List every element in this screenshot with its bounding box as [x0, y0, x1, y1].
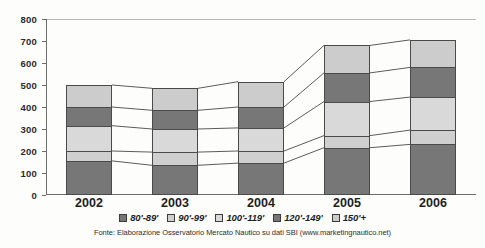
bar-segment[interactable] — [67, 85, 111, 107]
stacked-bar-chart: 0100200300400500600700800 20022003200420… — [0, 0, 485, 248]
y-tick-label: 300 — [21, 124, 37, 135]
bar-segment[interactable] — [411, 144, 455, 195]
bar-segment[interactable] — [239, 107, 283, 128]
legend-swatch-icon — [119, 214, 127, 222]
y-tick-label: 600 — [21, 58, 37, 69]
bar-segment[interactable] — [153, 152, 197, 165]
legend-label: 90'-99' — [178, 212, 206, 223]
x-tick-label: 2006 — [419, 196, 447, 210]
stacked-bar[interactable] — [410, 40, 456, 195]
bar-segment[interactable] — [239, 163, 283, 195]
legend-label: 150'+ — [343, 212, 366, 223]
bar-segment[interactable] — [153, 129, 197, 152]
y-axis: 0100200300400500600700800 — [0, 0, 46, 200]
legend-label: 100'-119' — [226, 212, 264, 223]
y-tick-label: 100 — [21, 168, 37, 179]
chart-legend: 80'-89'90'-99'100'-119'120'-149'150'+ — [0, 212, 485, 223]
bar-segment[interactable] — [411, 67, 455, 97]
x-tick-label: 2003 — [161, 196, 189, 210]
legend-label: 80'-89' — [130, 212, 158, 223]
bar-segment[interactable] — [153, 110, 197, 129]
legend-swatch-icon — [332, 214, 340, 222]
legend-swatch-icon — [273, 214, 281, 222]
stacked-bar[interactable] — [238, 82, 284, 195]
legend-swatch-icon — [215, 214, 223, 222]
y-tick-label: 500 — [21, 80, 37, 91]
bar-segment[interactable] — [239, 82, 283, 107]
legend-item[interactable]: 150'+ — [332, 212, 366, 223]
legend-label: 120'-149' — [284, 212, 322, 223]
y-tick-label: 700 — [21, 36, 37, 47]
bar-segment[interactable] — [67, 161, 111, 195]
bar-segment[interactable] — [325, 148, 369, 195]
source-note: Fonte: Elaborazione Osservatorio Mercato… — [0, 228, 485, 237]
legend-item[interactable]: 100'-119' — [215, 212, 264, 223]
bar-segment[interactable] — [325, 73, 369, 102]
bar-segment[interactable] — [153, 88, 197, 110]
bar-segment[interactable] — [411, 40, 455, 68]
legend-item[interactable]: 120'-149' — [273, 212, 322, 223]
bar-segment[interactable] — [67, 126, 111, 151]
bar-segment[interactable] — [239, 151, 283, 163]
bar-segment[interactable] — [67, 107, 111, 126]
bar-segment[interactable] — [67, 151, 111, 161]
x-axis-labels: 20022003200420052006 — [46, 196, 476, 213]
y-tick-label: 200 — [21, 146, 37, 157]
bar-segment[interactable] — [325, 136, 369, 148]
legend-swatch-icon — [167, 214, 175, 222]
legend-item[interactable]: 90'-99' — [167, 212, 206, 223]
bar-segment[interactable] — [239, 128, 283, 151]
x-tick-label: 2002 — [75, 196, 103, 210]
x-tick-label: 2005 — [333, 196, 361, 210]
x-tick-label: 2004 — [247, 196, 275, 210]
stacked-bar[interactable] — [324, 45, 370, 195]
bars-layer — [46, 19, 476, 195]
y-tick-label: 400 — [21, 102, 37, 113]
y-tick-label: 0 — [32, 190, 37, 201]
bar-segment[interactable] — [325, 45, 369, 73]
bar-segment[interactable] — [411, 130, 455, 144]
stacked-bar[interactable] — [66, 85, 112, 195]
bar-segment[interactable] — [325, 102, 369, 136]
bar-segment[interactable] — [153, 165, 197, 195]
y-tick-label: 800 — [21, 14, 37, 25]
legend-item[interactable]: 80'-89' — [119, 212, 158, 223]
stacked-bar[interactable] — [152, 88, 198, 195]
bar-segment[interactable] — [411, 97, 455, 130]
